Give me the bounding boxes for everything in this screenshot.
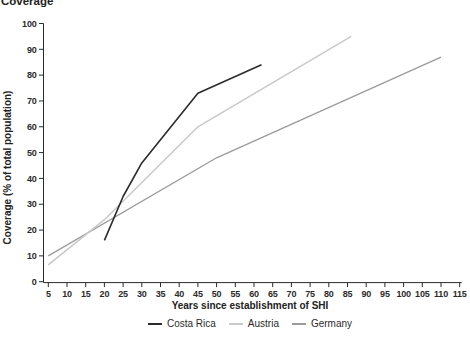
y-tick-label: 10 bbox=[27, 251, 37, 261]
y-tick-label: 100 bbox=[22, 19, 37, 29]
x-tick-label: 60 bbox=[249, 289, 259, 299]
shi-coverage-figure: Coverage 0102030405060708090100510152025… bbox=[0, 0, 470, 344]
x-tick-label: 35 bbox=[156, 289, 166, 299]
x-tick-label: 45 bbox=[193, 289, 203, 299]
x-axis-label: Years since establishment of SHI bbox=[30, 300, 470, 311]
x-tick-label: 90 bbox=[361, 289, 371, 299]
legend-swatch-germany bbox=[292, 323, 306, 325]
series-line-austria bbox=[48, 36, 351, 265]
legend-label-austria: Austria bbox=[248, 318, 279, 329]
legend-label-germany: Germany bbox=[311, 318, 352, 329]
x-tick-label: 85 bbox=[343, 289, 353, 299]
series-line-germany bbox=[48, 57, 441, 256]
x-tick-label: 100 bbox=[396, 289, 411, 299]
x-tick-label: 30 bbox=[137, 289, 147, 299]
y-tick-label: 50 bbox=[27, 148, 37, 158]
series-line-costa-rica bbox=[104, 65, 261, 241]
legend-swatch-austria bbox=[229, 323, 243, 325]
x-tick-label: 10 bbox=[62, 289, 72, 299]
x-tick-label: 70 bbox=[287, 289, 297, 299]
legend-item-germany: Germany bbox=[292, 318, 352, 329]
x-tick-label: 110 bbox=[434, 289, 448, 299]
x-tick-label: 75 bbox=[305, 289, 315, 299]
legend-item-austria: Austria bbox=[229, 318, 279, 329]
x-tick-label: 25 bbox=[118, 289, 128, 299]
x-tick-label: 15 bbox=[81, 289, 91, 299]
y-tick-label: 20 bbox=[27, 225, 37, 235]
x-tick-label: 65 bbox=[268, 289, 278, 299]
y-tick-label: 40 bbox=[27, 174, 37, 184]
x-tick-label: 115 bbox=[453, 289, 467, 299]
x-tick-label: 95 bbox=[380, 289, 390, 299]
x-tick-label: 40 bbox=[174, 289, 184, 299]
x-tick-label: 55 bbox=[230, 289, 240, 299]
chart-plot-area: 0102030405060708090100510152025303540455… bbox=[0, 0, 470, 344]
y-tick-label: 70 bbox=[27, 96, 37, 106]
y-tick-label: 60 bbox=[27, 122, 37, 132]
y-tick-label: 0 bbox=[32, 277, 37, 287]
legend-item-costa-rica: Costa Rica bbox=[148, 318, 216, 329]
y-axis-label: Coverage (% of total population) bbox=[2, 39, 13, 297]
y-tick-label: 90 bbox=[27, 45, 37, 55]
x-tick-label: 5 bbox=[46, 289, 51, 299]
x-tick-label: 80 bbox=[324, 289, 334, 299]
legend-label-costa-rica: Costa Rica bbox=[167, 318, 216, 329]
x-tick-label: 50 bbox=[212, 289, 222, 299]
x-tick-label: 20 bbox=[100, 289, 110, 299]
y-tick-label: 30 bbox=[27, 199, 37, 209]
x-tick-label: 105 bbox=[415, 289, 430, 299]
chart-legend: Costa RicaAustriaGermany bbox=[30, 318, 470, 329]
y-tick-label: 80 bbox=[27, 70, 37, 80]
legend-swatch-costa-rica bbox=[148, 323, 162, 325]
